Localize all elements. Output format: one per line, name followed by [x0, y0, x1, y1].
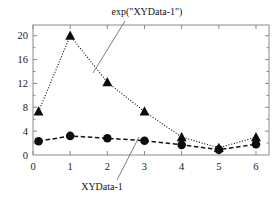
y-tick-label: 4: [23, 126, 29, 137]
annotation-label-1: exp("XYData-1"): [112, 6, 183, 18]
x-tick-label: 2: [105, 161, 110, 172]
annotation-leader-2: [117, 137, 139, 180]
data-point-circle: [215, 145, 224, 154]
series-line-1: [39, 36, 256, 148]
x-tick-label: 5: [216, 161, 221, 172]
data-point-circle: [140, 136, 149, 145]
chart-container: 0123456048121620exp("XYData-1")XYData-1: [0, 0, 278, 202]
data-point-circle: [252, 140, 261, 149]
data-point-circle: [66, 132, 75, 141]
data-point-triangle: [177, 132, 187, 141]
annotation-leader-1: [93, 21, 125, 73]
annotation-label-2: XYData-1: [81, 181, 123, 192]
y-tick-label: 12: [18, 78, 29, 89]
data-point-circle: [103, 134, 112, 143]
x-tick-label: 6: [253, 161, 258, 172]
y-tick-label: 20: [18, 30, 29, 41]
x-tick-label: 0: [30, 161, 35, 172]
xy-line-chart: 0123456048121620exp("XYData-1")XYData-1: [0, 0, 278, 202]
data-point-triangle: [140, 106, 150, 115]
data-point-circle: [34, 137, 43, 146]
data-point-triangle: [65, 31, 75, 40]
data-point-circle: [177, 141, 186, 150]
x-tick-label: 3: [142, 161, 147, 172]
x-tick-label: 1: [68, 161, 73, 172]
data-point-triangle: [251, 132, 261, 141]
data-point-triangle: [102, 77, 112, 86]
x-tick-label: 4: [179, 161, 185, 172]
y-tick-label: 0: [23, 150, 28, 161]
y-tick-label: 16: [18, 54, 29, 65]
y-tick-label: 8: [23, 102, 28, 113]
